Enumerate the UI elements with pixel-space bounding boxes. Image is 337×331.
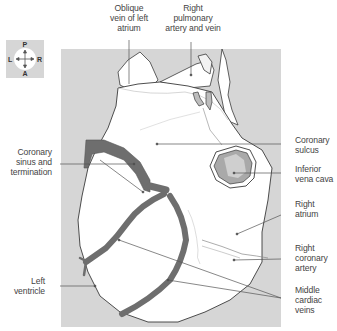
label-middle-cardiac-veins: Middle cardiac veins <box>295 285 322 316</box>
label-line: Right <box>160 3 226 13</box>
label-right-coronary-artery: Right coronary artery <box>295 243 328 274</box>
label-line: vena cava <box>295 174 333 184</box>
label-line: Left <box>0 276 45 286</box>
label-right-pulmonary-artery-and-vein: Right pulmonary artery and vein <box>160 3 226 34</box>
label-line: atrium <box>295 209 318 219</box>
label-line: coronary <box>295 253 328 263</box>
label-line: Middle <box>295 285 322 295</box>
label-line: sulcus <box>295 145 330 155</box>
label-inferior-vena-cava: Inferior vena cava <box>295 164 333 184</box>
label-line: Coronary <box>0 147 52 157</box>
label-line: ventricle <box>0 286 45 296</box>
label-line: cardiac <box>295 295 322 305</box>
label-line: sinus and <box>0 157 52 167</box>
label-line: termination <box>0 167 52 177</box>
label-line: vein of left <box>100 13 158 23</box>
label-line: Coronary <box>295 135 330 145</box>
label-coronary-sulcus: Coronary sulcus <box>295 135 330 155</box>
label-line: Inferior <box>295 164 333 174</box>
label-line: Right <box>295 199 318 209</box>
label-line: veins <box>295 305 322 315</box>
label-oblique-vein-of-left-atrium: Oblique vein of left atrium <box>100 3 158 34</box>
label-line: pulmonary <box>160 13 226 23</box>
label-left-ventricle: Left ventricle <box>0 276 45 296</box>
label-line: Right <box>295 243 328 253</box>
label-coronary-sinus-and-termination: Coronary sinus and termination <box>0 147 52 178</box>
label-line: artery and vein <box>160 23 226 33</box>
label-line: artery <box>295 263 328 273</box>
label-right-atrium: Right atrium <box>295 199 318 219</box>
label-line: atrium <box>100 23 158 33</box>
label-line: Oblique <box>100 3 158 13</box>
